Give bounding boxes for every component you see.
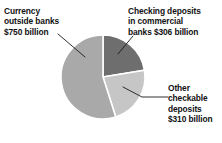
callout-label-other-checkable-deposits: Other checkable deposits $310 billion [168,83,222,125]
callout-label-currency-outside-banks: Currency outside banks $750 billion [4,6,90,37]
callout-label-checking-deposits: Checking deposits in commercial banks $3… [128,6,220,37]
pie-chart-figure: Currency outside banks $750 billion Chec… [0,0,222,143]
